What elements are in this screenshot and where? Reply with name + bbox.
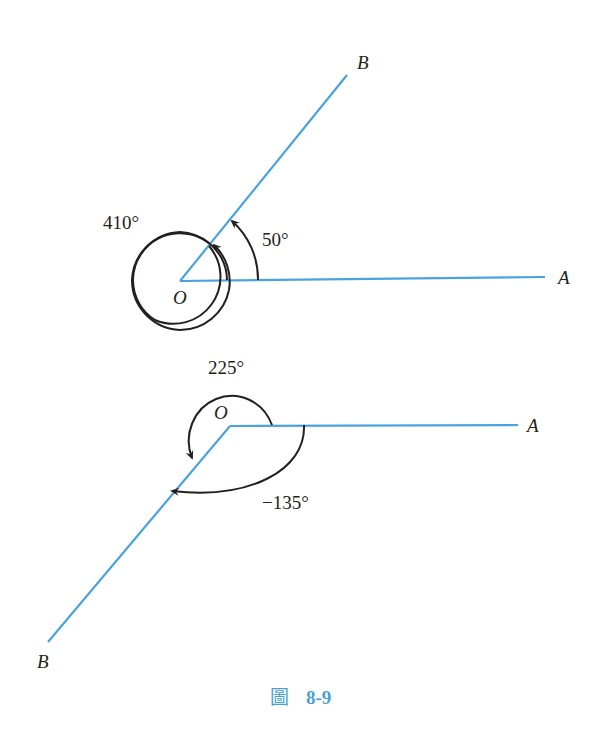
caption-number: 8-9 [306, 687, 331, 708]
top-terminal-ray-OB [180, 75, 347, 281]
top-diagram: 50° 410° O A B [103, 52, 570, 330]
figure-canvas: 50° 410° O A B 225° −135° O A B 圖 8-9 [0, 0, 595, 735]
bottom-diagram: 225° −135° O A B [37, 357, 539, 672]
top-initial-ray-OA [180, 277, 545, 281]
arc-neg-135-deg-icon [172, 425, 304, 493]
bottom-point-label-A: A [525, 415, 539, 436]
figure-caption: 圖 8-9 [270, 686, 331, 708]
bottom-vertex-label-O: O [214, 402, 228, 423]
label-50-deg: 50° [262, 229, 289, 250]
arc-50-deg-icon [232, 221, 258, 280]
bottom-point-label-B: B [37, 651, 49, 672]
label-410-deg: 410° [103, 212, 139, 233]
top-point-label-A: A [556, 267, 570, 288]
arc-410-deg-bottom-icon [180, 290, 229, 330]
bottom-initial-ray-OA [230, 425, 518, 426]
label-neg-135-deg: −135° [262, 492, 309, 513]
label-225-deg: 225° [208, 357, 244, 378]
top-point-label-B: B [357, 52, 369, 73]
caption-prefix: 圖 [270, 686, 289, 708]
bottom-terminal-ray-OB [48, 426, 230, 642]
top-vertex-label-O: O [173, 287, 187, 308]
